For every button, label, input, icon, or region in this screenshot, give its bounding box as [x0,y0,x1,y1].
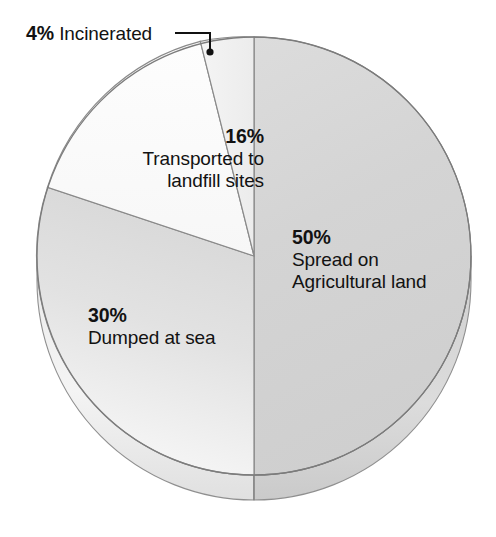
slice-percent-incinerated: 4% [26,22,54,44]
slice-description-sea: Dumped at sea [88,327,216,349]
slice-label-landfill: 16% Transported to landfill sites [68,125,264,193]
slice-description-landfill-line2: landfill sites [68,170,264,192]
pie-chart: 4% Incinerated 16% Transported to landfi… [0,0,496,537]
slice-description-landfill-line1: Transported to [68,148,264,170]
slice-percent-landfill: 16% [68,125,264,148]
slice-label-sea: 30% Dumped at sea [88,304,216,349]
slice-label-agricultural: 50% Spread on Agricultural land [292,226,427,294]
slice-description-agricultural-line1: Spread on [292,249,427,271]
slice-description-agricultural: Spread on Agricultural land [292,249,427,294]
slice-description-sea-line1: Dumped at sea [88,327,216,349]
slice-description-landfill: Transported to landfill sites [68,148,264,193]
slice-label-incinerated: 4% Incinerated [26,22,152,45]
slice-percent-sea: 30% [88,304,216,327]
slice-description-agricultural-line2: Agricultural land [292,271,427,293]
slice-percent-agricultural: 50% [292,226,427,249]
slice-description-incinerated: Incinerated [59,23,152,44]
